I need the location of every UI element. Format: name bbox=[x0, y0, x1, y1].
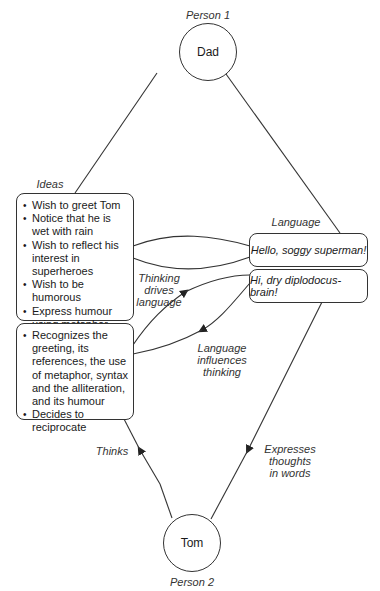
person2-caption: Person 2 bbox=[162, 576, 222, 588]
idea-item: Notice that he is wet with rain bbox=[23, 212, 129, 238]
expresses-label: Expresses thoughts in words bbox=[260, 443, 320, 479]
idea-item: Wish to greet Tom bbox=[23, 199, 129, 212]
person1-node: Dad bbox=[179, 23, 237, 81]
ideas-label: Ideas bbox=[30, 178, 70, 190]
dad-utterance-box: Hello, soggy superman! bbox=[249, 233, 368, 267]
thinks-label: Thinks bbox=[92, 445, 132, 457]
person2-node: Tom bbox=[163, 514, 221, 572]
idea-item: Wish to reflect his interest in superher… bbox=[23, 239, 129, 279]
idea-item: Wish to be humorous bbox=[23, 278, 129, 304]
person2-name: Tom bbox=[181, 536, 204, 550]
dad-utterance: Hello, soggy superman! bbox=[251, 244, 367, 256]
response-box: Recognizes the greeting, its references,… bbox=[16, 323, 134, 420]
response-item: Decides to reciprocate bbox=[23, 408, 129, 434]
tom-utterance-box: Hi, dry diplodocus-brain! bbox=[249, 269, 368, 303]
person1-name: Dad bbox=[197, 45, 219, 59]
language-influences-thinking-label: Language influences thinking bbox=[196, 342, 248, 378]
language-label: Language bbox=[266, 216, 326, 228]
thinking-drives-language-label: Thinking drives language bbox=[134, 272, 184, 308]
person1-caption: Person 1 bbox=[178, 9, 238, 21]
response-item: Recognizes the greeting, its references,… bbox=[23, 329, 129, 408]
ideas-box: Wish to greet Tom Notice that he is wet … bbox=[16, 193, 134, 321]
tom-utterance: Hi, dry diplodocus-brain! bbox=[250, 274, 367, 298]
